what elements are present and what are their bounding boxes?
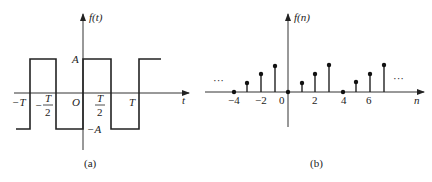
tick-T: T <box>129 96 136 108</box>
tick-half-T-num: T <box>97 92 104 104</box>
stem-point <box>382 63 386 67</box>
tick-n-neg2: −2 <box>255 94 267 106</box>
ellipsis-left: ··· <box>213 74 224 86</box>
tick-n-neg4: −4 <box>228 94 240 106</box>
stem-plot <box>232 63 386 94</box>
figure-b: f(n) n ··· ··· −4 −2 0 2 4 6 (b) <box>205 11 424 170</box>
tick-neg-half-T-num: T <box>45 92 52 104</box>
square-wave <box>16 59 161 129</box>
stem-point <box>368 72 372 76</box>
figure-a: f(t) t A −A O −T − T 2 T 2 T (a) <box>12 11 189 170</box>
caption-a: (a) <box>84 157 97 170</box>
ellipsis-right: ··· <box>393 72 404 84</box>
ft-axis-label: f(t) <box>89 11 103 24</box>
tick-half-T-den: 2 <box>97 106 103 118</box>
fn-axis-label: f(n) <box>294 11 310 24</box>
t-axis-label: t <box>182 94 186 106</box>
tick-n-6: 6 <box>366 94 372 106</box>
tick-n-2: 2 <box>312 94 318 106</box>
tick-neg-T: −T <box>12 96 26 108</box>
figure-canvas: f(t) t A −A O −T − T 2 T 2 T (a) <box>0 0 432 182</box>
origin-label: O <box>72 96 80 108</box>
tick-n-0: 0 <box>279 94 285 106</box>
tick-n-4: 4 <box>341 94 347 106</box>
caption-b: (b) <box>310 157 323 170</box>
stem-point <box>327 63 331 67</box>
stem-point <box>354 80 358 84</box>
stem-point <box>259 72 263 76</box>
stem-point <box>286 90 290 94</box>
stem-point <box>273 64 277 68</box>
n-axis-label: n <box>414 94 420 106</box>
amplitude-high-label: A <box>71 53 79 65</box>
tick-neg-half-T-den: 2 <box>45 106 51 118</box>
stem-point <box>245 81 249 85</box>
stem-point <box>300 81 304 85</box>
stem-point <box>313 72 317 76</box>
tick-neg-half-T-sign: − <box>35 99 42 111</box>
amplitude-low-label: −A <box>87 123 101 135</box>
